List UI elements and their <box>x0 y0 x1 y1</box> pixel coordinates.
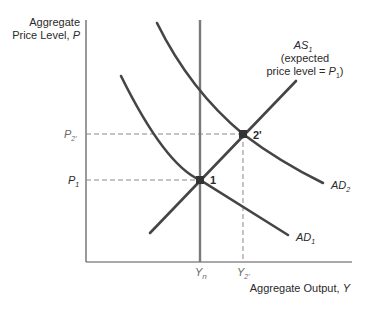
y-axis-title-line1: Aggregate <box>29 16 80 28</box>
as1-note-line2: price level = P1) <box>267 65 344 79</box>
y2-tick-label: Y2' <box>237 266 250 280</box>
ad1-label: AD1 <box>295 231 315 245</box>
as1-note-line1: (expected <box>281 52 329 64</box>
ad1-curve <box>121 76 288 235</box>
y-axis-title-line2: Price Level, P <box>12 29 81 41</box>
x-axis-title: Aggregate Output, Y <box>250 282 351 294</box>
equilibrium-point-1 <box>196 176 204 184</box>
point-2-label: 2' <box>253 129 262 141</box>
ad2-label: AD2 <box>330 179 350 193</box>
point-1-label: 1 <box>210 174 216 186</box>
p1-tick-label: P1 <box>68 174 79 188</box>
ad-as-chart: 1 2' Aggregate Price Level, P Aggregate … <box>0 0 373 309</box>
as1-label: AS1 <box>293 39 313 53</box>
p2-tick-label: P2' <box>64 128 77 142</box>
equilibrium-point-2 <box>239 130 247 138</box>
yn-tick-label: Yn <box>195 266 207 281</box>
